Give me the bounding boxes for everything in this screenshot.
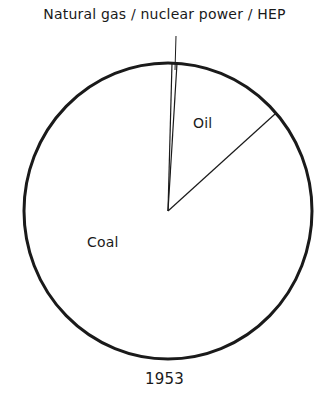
pie-chart-graphic [0, 0, 329, 414]
coal-label: Coal [87, 234, 119, 250]
gas-nuclear-hep-label: Natural gas / nuclear power / HEP [0, 6, 329, 22]
chart-year-label: 1953 [0, 370, 329, 388]
pie-chart: Natural gas / nuclear power / HEP Oil Co… [0, 0, 329, 414]
oil-label: Oil [193, 115, 212, 131]
